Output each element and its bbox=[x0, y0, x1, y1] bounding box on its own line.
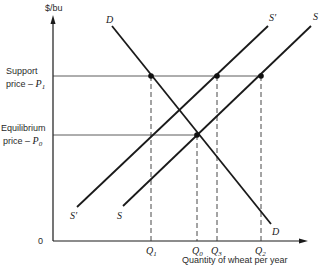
svg-text:price – P1: price – P1 bbox=[6, 78, 45, 91]
point-demand-at-support bbox=[148, 73, 154, 79]
supply-curve-shifted bbox=[77, 26, 268, 207]
supply-label-top: S bbox=[313, 11, 318, 22]
demand-label-top: D bbox=[105, 14, 114, 25]
y-axis-arrow-icon bbox=[51, 15, 56, 24]
svg-text:Support: Support bbox=[6, 66, 38, 76]
demand-label-bottom: D bbox=[271, 226, 280, 237]
point-equilibrium bbox=[194, 132, 200, 138]
supply-label-bottom: S bbox=[117, 210, 122, 221]
equilibrium-price-label: Equilibrium price – P0 bbox=[1, 123, 46, 148]
q1-label: Q1 bbox=[146, 245, 157, 258]
support-price-label: Support price – P1 bbox=[6, 66, 45, 91]
svg-text:price – P0: price – P0 bbox=[3, 135, 43, 148]
supply-shifted-label-top: S′ bbox=[269, 12, 277, 23]
point-shifted-supply-at-support bbox=[214, 73, 220, 79]
x-axis-arrow-icon bbox=[299, 239, 308, 244]
x-axis-label: Quantity of wheat per year bbox=[182, 255, 288, 265]
svg-text:Equilibrium: Equilibrium bbox=[1, 123, 46, 133]
axes bbox=[51, 15, 309, 244]
supply-demand-diagram: $/bu 0 Quantity of wheat per year Suppor… bbox=[0, 0, 319, 268]
y-axis-label: $/bu bbox=[45, 3, 63, 13]
supply-shifted-label-bottom: S′ bbox=[70, 210, 78, 221]
point-supply-at-support bbox=[258, 73, 264, 79]
origin-label: 0 bbox=[38, 236, 43, 246]
